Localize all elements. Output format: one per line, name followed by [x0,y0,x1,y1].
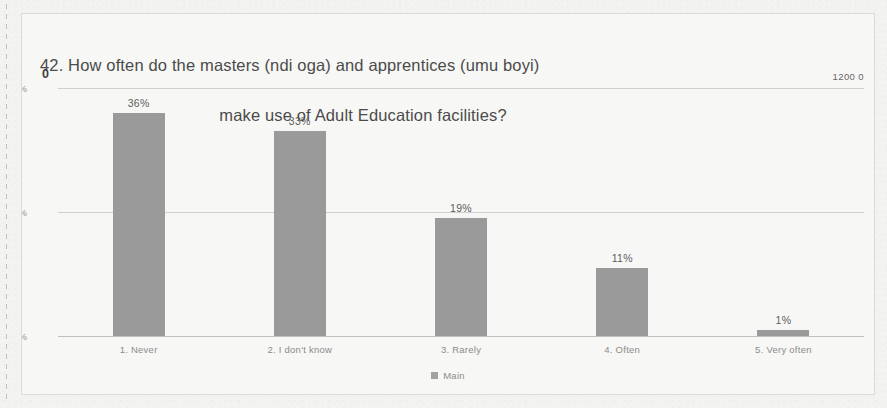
x-axis-category-label: 4. Often [542,344,703,355]
chart-panel: 42. How often do the masters (ndi oga) a… [22,14,874,394]
y-axis-tick-label: 0% [22,207,56,218]
scale-marker-right: 1200 0 [833,71,864,82]
legend-entry-label: Main [443,370,465,381]
bar[interactable]: 11% [596,268,648,336]
bar-value-label: 1% [776,314,792,326]
x-axis-category-label: 1. Never [58,344,219,355]
x-axis-category-label: 2. I don't know [219,344,380,355]
plot-area: 0%0%0% 36%33%19%11%1% [58,88,864,336]
bar[interactable]: 36% [113,113,165,336]
x-axis-category-label: 3. Rarely [380,344,541,355]
bar-slot: 36% [58,88,219,336]
bar-slot: 33% [219,88,380,336]
scale-marker-left: 0 [42,67,49,81]
x-axis-category-label: 5. Very often [703,344,864,355]
bar-value-label: 19% [450,202,472,214]
chart-title-line-1: 42. How often do the masters (ndi oga) a… [22,53,874,78]
bar-series: 36%33%19%11%1% [58,88,864,336]
y-axis-tick-label: 0% [22,331,56,342]
bar[interactable]: 19% [435,218,487,336]
bar-slot: 19% [380,88,541,336]
bar[interactable]: 33% [274,131,326,336]
bar-slot: 1% [703,88,864,336]
chart-legend: Main [22,370,874,381]
bar-value-label: 11% [612,252,633,264]
page-margin-rule [6,4,7,404]
gridline [58,336,864,337]
square-swatch-icon [431,372,438,379]
scanned-page: 42. How often do the masters (ndi oga) a… [0,0,887,408]
x-axis-category-labels: 1. Never2. I don't know3. Rarely4. Often… [58,344,864,355]
bar-value-label: 36% [128,97,150,109]
y-axis-tick-label: 0% [22,83,56,94]
bar-slot: 11% [542,88,703,336]
bar-value-label: 33% [289,115,311,127]
bar[interactable]: 1% [757,330,809,336]
